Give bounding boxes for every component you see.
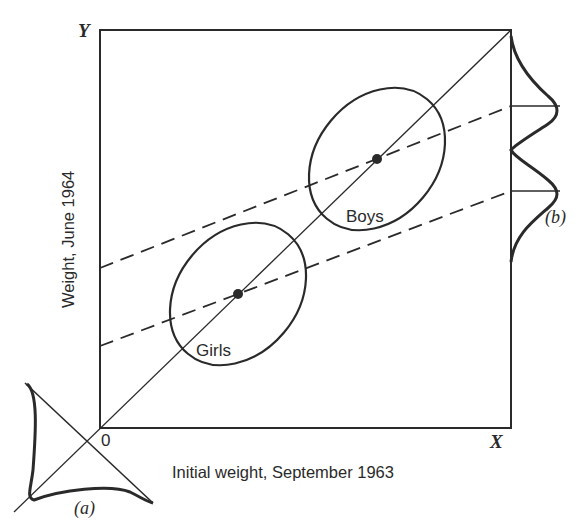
boys-regression-line (100, 106, 511, 268)
x-axis-letter: X (489, 431, 504, 452)
panel-label-b: (b) (545, 207, 566, 228)
identity-diagonal-line (14, 30, 511, 512)
weight-regression-diagram: Girls Boys Y X 0 Initial weight, Septemb… (0, 0, 581, 530)
marginal-distribution-a (25, 383, 153, 503)
girls-mean-point (233, 289, 243, 299)
girls-group: Girls (142, 196, 334, 393)
bimodal-density-curve (511, 36, 557, 262)
boys-group: Boys (281, 61, 473, 258)
y-axis-letter: Y (78, 20, 92, 41)
panel-label-a: (a) (74, 498, 95, 519)
anti-diagonal-line (25, 383, 153, 503)
regression-lines (100, 106, 511, 346)
marginal-distribution-b (511, 36, 560, 262)
y-axis-label: Weight, June 1964 (59, 171, 77, 308)
boys-label: Boys (346, 207, 384, 226)
origin-label: 0 (101, 431, 110, 450)
girls-label: Girls (196, 341, 231, 360)
x-axis-label: Initial weight, September 1963 (172, 463, 394, 481)
boys-mean-point (372, 154, 382, 164)
